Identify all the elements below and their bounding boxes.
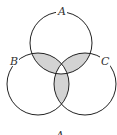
label-c: C bbox=[101, 55, 110, 68]
venn-diagram: A B C A bbox=[0, 0, 117, 135]
label-a: A bbox=[57, 5, 66, 18]
bottom-label: A bbox=[55, 129, 64, 135]
label-b: B bbox=[9, 55, 18, 68]
